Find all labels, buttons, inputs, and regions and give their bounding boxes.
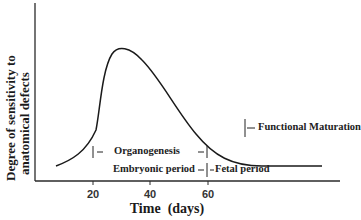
x-axis-label: Time (days) [130,201,204,217]
fetal-period-label: Fetal period [215,163,270,174]
functional-maturation-label: Functional Maturation [258,121,361,132]
x-tick-label-20: 20 [87,188,99,200]
organogenesis-label: Organogenesis [114,145,180,156]
sensitivity-curve [56,48,322,166]
y-axis-label-line2: anatomical defects [17,72,33,175]
x-tick-label-60: 60 [202,188,214,200]
embryonic-period-label: Embryonic period [113,163,195,174]
y-axis-label: Degree of sensitivity to anatomical defe… [0,0,34,185]
x-tick-label-40: 40 [144,188,156,200]
